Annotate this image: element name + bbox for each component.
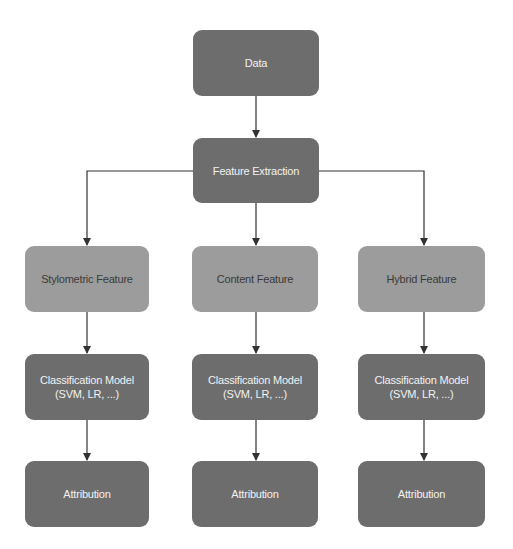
classification-left-line2: (SVM, LR, ...) [55, 387, 119, 401]
attribution-left-label: Attribution [63, 487, 110, 501]
flowchart-canvas: Data Feature Extraction Stylometric Feat… [0, 0, 513, 549]
classification-left-line1: Classification Model [40, 373, 134, 387]
node-classification-model-middle: Classification Model (SVM, LR, ...) [192, 354, 318, 420]
node-data: Data [193, 30, 319, 96]
attribution-right-label: Attribution [398, 487, 445, 501]
node-stylometric-feature-label: Stylometric Feature [41, 272, 133, 286]
node-feature-extraction: Feature Extraction [193, 138, 319, 203]
arrow-extraction-to-hybrid [319, 171, 424, 245]
classification-right-line2: (SVM, LR, ...) [390, 387, 454, 401]
node-attribution-middle: Attribution [192, 461, 318, 527]
arrow-extraction-to-stylometric [87, 171, 193, 245]
node-attribution-right: Attribution [358, 461, 485, 527]
node-data-label: Data [245, 56, 267, 70]
node-hybrid-feature-label: Hybrid Feature [387, 272, 457, 286]
classification-right-line1: Classification Model [375, 373, 469, 387]
node-content-feature-label: Content Feature [217, 272, 294, 286]
node-content-feature: Content Feature [192, 246, 318, 312]
node-classification-model-left: Classification Model (SVM, LR, ...) [25, 354, 149, 420]
node-hybrid-feature: Hybrid Feature [358, 246, 485, 312]
node-stylometric-feature: Stylometric Feature [25, 246, 149, 312]
node-attribution-left: Attribution [25, 461, 149, 527]
classification-middle-line1: Classification Model [208, 373, 302, 387]
node-classification-model-right: Classification Model (SVM, LR, ...) [358, 354, 485, 420]
classification-middle-line2: (SVM, LR, ...) [223, 387, 287, 401]
node-feature-extraction-label: Feature Extraction [213, 164, 299, 178]
attribution-middle-label: Attribution [231, 487, 278, 501]
